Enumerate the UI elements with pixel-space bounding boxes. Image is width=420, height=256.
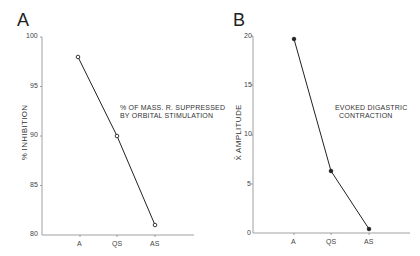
y-tick-label: 20 xyxy=(244,32,252,39)
panel-a: A 100 95 90 85 80 A QS AS % INHIBITION %… xyxy=(0,0,210,256)
y-tick-label: 90 xyxy=(30,131,38,138)
y-tick-label: 5 xyxy=(247,180,251,187)
x-tick-label: AS xyxy=(150,240,159,247)
y-tick-label: 0 xyxy=(247,229,251,236)
data-point-as xyxy=(367,227,371,231)
data-point-a xyxy=(292,37,296,41)
y-tick-label: 15 xyxy=(244,81,252,88)
x-tick-label: QS xyxy=(112,240,122,247)
y-axis-label: X̄ AMPLITUDE xyxy=(234,103,243,163)
annotation-line-1: EVOKED DIGASTRIC xyxy=(335,104,407,112)
annotation-line-2: BY ORBITAL STIMULATION xyxy=(120,112,213,120)
data-point-as xyxy=(153,223,157,227)
y-tick-label: 10 xyxy=(244,130,252,137)
x-tick-label: QS xyxy=(326,238,336,245)
data-point-qs xyxy=(329,169,333,173)
x-tick-label: AS xyxy=(364,238,373,245)
data-point-qs xyxy=(115,134,119,138)
x-tick-label: A xyxy=(291,238,296,245)
x-tick-label: A xyxy=(77,240,82,247)
y-tick-label: 95 xyxy=(30,82,38,89)
y-tick-label: 100 xyxy=(26,32,38,39)
annotation-line-2: CONTRACTION xyxy=(339,112,393,120)
y-axis-label: % INHIBITION xyxy=(20,103,29,163)
y-tick-label: 85 xyxy=(30,181,38,188)
y-tick-label: 80 xyxy=(30,230,38,237)
panel-b: B 20 15 10 5 0 A QS AS X̄ AMPLITUDE EVOK… xyxy=(210,0,420,256)
data-point-a xyxy=(76,55,80,59)
